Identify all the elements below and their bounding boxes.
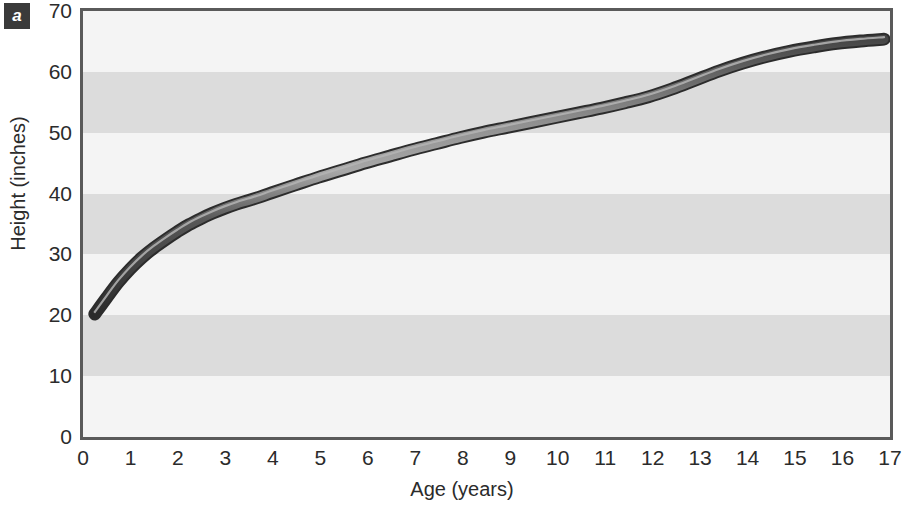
x-axis-tick-label: 0 (77, 446, 89, 470)
x-axis-tick-label: 13 (688, 446, 711, 470)
x-axis-tick-label: 16 (831, 446, 854, 470)
y-axis-tick-label: 70 (8, 0, 72, 23)
x-axis-title: Age (years) (0, 478, 906, 501)
growth-curve-line (95, 39, 884, 314)
growth-curve-svg (83, 11, 890, 437)
x-axis-tick-label: 17 (878, 446, 901, 470)
x-axis-tick-label: 6 (362, 446, 374, 470)
figure-panel: a 010203040506070 0123456789101112131415… (0, 0, 906, 508)
y-axis-tick-label: 10 (8, 364, 72, 388)
x-axis-tick-label: 3 (220, 446, 232, 470)
x-axis-tick-label: 9 (504, 446, 516, 470)
x-axis-tick-label: 14 (736, 446, 759, 470)
x-axis-tick-label: 7 (409, 446, 421, 470)
x-axis-tick-label: 1 (125, 446, 137, 470)
x-axis-title-text: Age (years) (392, 478, 513, 501)
y-axis-tick-label: 20 (8, 303, 72, 327)
x-axis-tick-label: 4 (267, 446, 279, 470)
x-axis-tick-label: 8 (457, 446, 469, 470)
x-axis-tick-label: 5 (315, 446, 327, 470)
growth-curve-outline (95, 39, 884, 314)
x-axis-tick-label: 11 (594, 446, 616, 470)
x-axis-tick-label: 15 (783, 446, 806, 470)
plot-area (80, 8, 893, 440)
y-axis-title: Height (inches) (7, 74, 30, 294)
x-axis-tick-label: 10 (546, 446, 569, 470)
x-axis-tick-label: 2 (172, 446, 184, 470)
x-axis-ticks: 01234567891011121314151617 (0, 446, 906, 476)
growth-curve-highlight (95, 37, 884, 312)
x-axis-tick-label: 12 (641, 446, 664, 470)
